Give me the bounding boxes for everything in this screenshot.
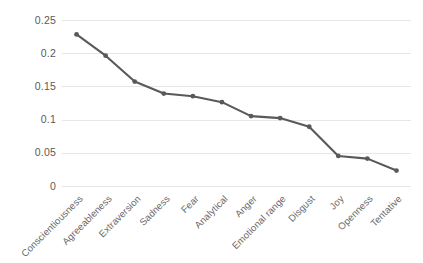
y-axis-tick-label: 0.25 [35, 14, 56, 26]
data-point [278, 116, 283, 121]
y-axis-tick-label: 0.1 [41, 113, 56, 125]
data-point [161, 91, 166, 96]
data-point [394, 168, 399, 173]
data-point [74, 32, 79, 37]
y-axis-tick-label: 0 [50, 180, 56, 192]
data-point [132, 79, 137, 84]
data-point [220, 100, 225, 105]
chart-canvas [0, 0, 423, 263]
gridline-group [62, 21, 411, 187]
line-chart: 00.050.10.150.20.25 ConscientiousnessAgr… [0, 0, 423, 263]
y-axis-tick-label: 0.05 [35, 146, 56, 158]
data-point [103, 53, 108, 58]
y-axis-tick-label: 0.15 [35, 80, 56, 92]
y-axis-tick-label: 0.2 [41, 47, 56, 59]
data-point-group [74, 32, 399, 173]
data-point [190, 94, 195, 99]
data-point [307, 124, 312, 129]
data-point [365, 156, 370, 161]
series-line [77, 34, 397, 170]
data-point [249, 114, 254, 119]
data-point [336, 154, 341, 159]
